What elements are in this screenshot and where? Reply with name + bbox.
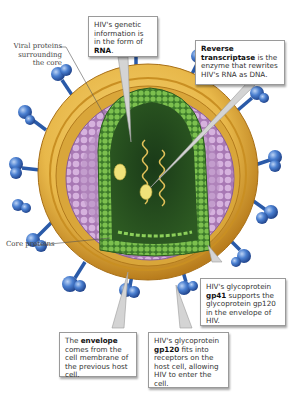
label-viral-proteins-line1: Viral proteins [8, 42, 62, 51]
label-viral-proteins-line3: the core [8, 59, 62, 68]
callout-gp120: HIV's glycoprotein gp120 fits into recep… [148, 332, 229, 388]
callout-envelope: The envelope comes from the cell membran… [59, 332, 137, 377]
callout-rna-text: HIV's genetic information is in the form… [94, 20, 144, 46]
callout-reverse-transcriptase: Reverse transcriptase is the enzyme that… [195, 40, 285, 85]
hiv-diagram: Viral proteins surrounding the core Core… [0, 0, 295, 403]
label-viral-proteins-line2: surrounding [8, 51, 62, 60]
callout-rna: HIV's genetic information is in the form… [88, 16, 158, 57]
label-core-proteins: Core proteins [6, 240, 68, 249]
label-viral-proteins: Viral proteins surrounding the core [8, 42, 62, 68]
callout-rna-post: . [111, 46, 113, 55]
callout-rna-bold: RNA [94, 46, 111, 55]
callout-envelope-text: comes from the cell membrane of the prev… [65, 345, 128, 380]
callout-rt-bold: Reverse transcriptase [201, 44, 255, 62]
callout-gp41: HIV's glycoprotein gp41 supports the gly… [200, 278, 286, 326]
